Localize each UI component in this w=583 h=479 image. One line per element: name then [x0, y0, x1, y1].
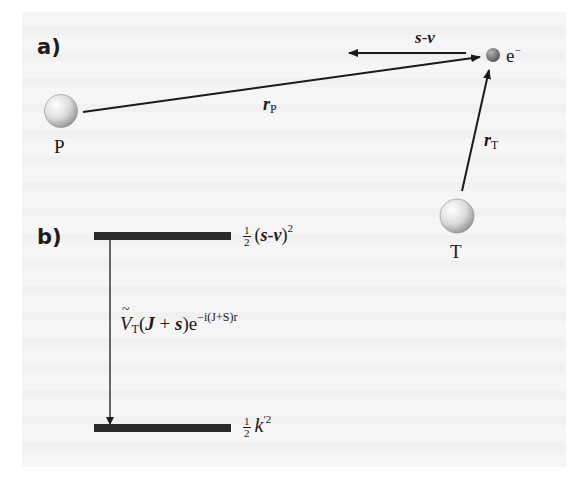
- v-tilde-symbol: V: [120, 313, 132, 335]
- v-symbol: v: [427, 28, 435, 47]
- lower-level-energy-label: 12k′2: [243, 413, 271, 439]
- transition-matrix-element: VT(J + s)e−i(J+S)r: [120, 310, 237, 337]
- electron-label: e−: [506, 44, 521, 67]
- panel-b-label: b): [37, 225, 62, 249]
- vector-rP-subscript: P: [270, 102, 277, 116]
- vector-rT-symbol: r: [484, 130, 491, 150]
- vector-rT-label: rT: [484, 130, 498, 153]
- one-half-fraction: 12: [243, 416, 251, 439]
- one-half-fraction: 12: [243, 225, 251, 248]
- lower-energy-level-bar: [94, 424, 231, 432]
- vector-rP-label: rP: [263, 94, 277, 117]
- vector-rP-symbol: r: [263, 94, 270, 114]
- target-label: T: [450, 241, 462, 263]
- vector-rP-arrow: [83, 57, 480, 112]
- electron-charge: −: [514, 44, 520, 56]
- projectile-sphere-icon: [45, 95, 78, 128]
- upper-energy-level-bar: [94, 232, 231, 240]
- upper-level-energy-label: 12(s-v)2: [243, 222, 293, 248]
- panel-a-label: a): [37, 35, 61, 59]
- vector-s-minus-v-label: s-v: [415, 28, 435, 48]
- projectile-label: P: [54, 136, 65, 158]
- exponent: −i(J+S)r: [197, 310, 237, 324]
- electron-sphere-icon: [486, 48, 500, 62]
- target-sphere-icon: [440, 199, 474, 233]
- vector-rT-subscript: T: [491, 138, 498, 152]
- s-symbol: s: [415, 28, 422, 47]
